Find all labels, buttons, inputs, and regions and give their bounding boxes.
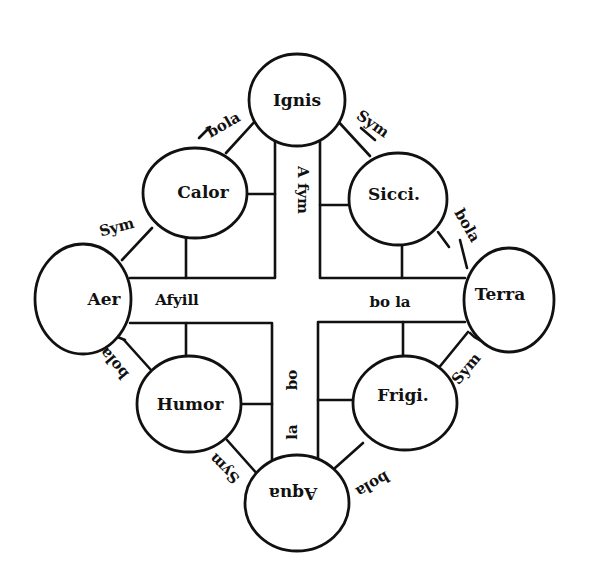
edge-calor-aer: Sym <box>97 214 136 241</box>
node-aqua: Aqua <box>245 455 349 551</box>
node-calor: Calor <box>143 148 247 238</box>
label-terra: Terra <box>475 284 525 304</box>
edge-ignis-calor: bola <box>203 108 243 142</box>
edge-humor-aqua: Sym <box>205 450 243 488</box>
diagram-canvas: Ignis Calor Sicci. Aer Terra Humor Frigi… <box>0 0 592 587</box>
label-frigi: Frigi. <box>377 385 428 405</box>
elements-diagram: Ignis Calor Sicci. Aer Terra Humor Frigi… <box>0 0 592 587</box>
node-terra: Terra <box>464 248 554 352</box>
label-aqua: Aqua <box>269 484 318 504</box>
cross-bottom-bo: bo <box>283 370 301 391</box>
node-aer: Aer <box>35 244 131 354</box>
node-ignis: Ignis <box>249 54 345 146</box>
label-humor: Humor <box>157 394 225 414</box>
cross-top-label: A fym <box>294 165 312 214</box>
node-frigi: Frigi. <box>353 356 457 450</box>
edge-sicci-terra: bola <box>451 205 485 245</box>
cross-bottom-la: la <box>283 424 301 440</box>
label-aer: Aer <box>87 289 122 309</box>
edge-ignis-sicci: Sym <box>353 106 392 141</box>
edge-frigi-aqua: bola <box>352 468 392 502</box>
edge-terra-frigi: Sym <box>448 349 485 388</box>
label-calor: Calor <box>177 182 229 202</box>
cross-right-label: bo la <box>369 293 410 311</box>
label-sicci: Sicci. <box>368 184 420 204</box>
label-ignis: Ignis <box>273 90 321 110</box>
cross-left-label: Afyill <box>154 291 199 309</box>
node-sicci: Sicci. <box>349 153 447 245</box>
node-humor: Humor <box>137 356 241 452</box>
